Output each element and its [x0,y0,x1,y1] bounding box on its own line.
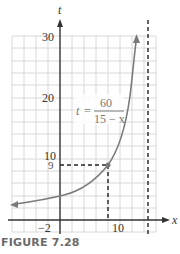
grid [12,36,156,232]
curve-left-arrow-icon [10,201,18,208]
y-tick-9: 9 [48,159,54,171]
y-tick-20: 20 [42,91,54,105]
y-tick-30: 30 [42,30,54,44]
point-10-9 [106,163,111,168]
x-axis-label: x [171,213,178,227]
x-axis-arrow-icon [162,217,170,223]
figure-canvas: t x 30 20 10 9 −2 10 t = 60 15 − x [0,0,180,254]
equation-numerator: 60 [100,96,112,110]
y-axis-arrow-icon [57,19,63,27]
curve-top-arrow-icon [133,34,140,43]
x-tick-10: 10 [112,221,124,235]
figure-caption: FIGURE 7.28 [1,236,80,249]
equation-label: t = 60 15 − x [74,94,125,126]
equation-equals: = [84,104,91,118]
y-axis-label: t [58,3,62,17]
x-tick-neg2: −2 [38,221,51,235]
equation-denominator: 15 − x [94,112,125,126]
